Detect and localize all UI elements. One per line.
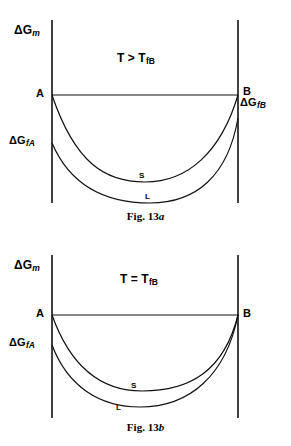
- curve-liquid-b: [52, 315, 238, 407]
- axis-label-y-a: ΔGm: [14, 24, 40, 37]
- caption-a-prefix: Fig. 13: [127, 210, 159, 222]
- curve-label-solid-b: S: [131, 382, 136, 390]
- axis-label-y-symbol-a: ΔG: [14, 23, 32, 37]
- energy-label-fa-symbol-b: ΔG: [9, 336, 26, 348]
- condition-operator-b: =: [128, 272, 141, 286]
- condition-right-subscript-b: fB: [149, 277, 158, 287]
- axis-label-y-symbol-b: ΔG: [14, 258, 32, 272]
- figure-panel-b: ΔGm T=TfB A B ΔGfA S L Fig. 13b: [0, 223, 291, 446]
- energy-label-fb-subscript-a: fB: [257, 100, 266, 110]
- curve-label-solid-a: S: [139, 172, 144, 180]
- caption-b-suffix: b: [159, 421, 165, 433]
- energy-label-fb-a: ΔGfB: [240, 97, 266, 109]
- caption-b: Fig. 13b: [0, 421, 291, 433]
- caption-a-suffix: a: [159, 210, 165, 222]
- axis-label-y-subscript-a: m: [32, 28, 40, 38]
- energy-label-fa-symbol-a: ΔG: [9, 134, 26, 146]
- point-label-b-right: B: [243, 308, 251, 319]
- condition-right-symbol-a: T: [138, 51, 146, 65]
- caption-b-prefix: Fig. 13: [127, 421, 159, 433]
- energy-label-fa-subscript-a: fA: [26, 138, 35, 148]
- condition-right-symbol-b: T: [141, 272, 149, 286]
- condition-label-a: T>TfB: [117, 52, 155, 65]
- condition-left-a: T: [117, 51, 125, 65]
- energy-label-fa-a: ΔGfA: [9, 135, 35, 147]
- curve-liquid-a: [52, 118, 238, 203]
- plot-graphic-b: [0, 223, 291, 428]
- axis-label-y-subscript-b: m: [32, 263, 40, 273]
- condition-label-b: T=TfB: [120, 273, 158, 286]
- caption-a: Fig. 13a: [0, 210, 291, 222]
- curve-solid-a: [52, 95, 238, 182]
- condition-operator-a: >: [125, 51, 138, 65]
- curve-label-liquid-b: L: [116, 404, 121, 412]
- point-label-a-left: A: [36, 88, 44, 99]
- energy-label-fa-subscript-b: fA: [26, 340, 35, 350]
- plot-area-b: ΔGm T=TfB A B ΔGfA S L: [0, 223, 291, 428]
- condition-right-subscript-a: fB: [146, 56, 155, 66]
- curve-solid-b: [52, 315, 238, 391]
- axis-label-y-b: ΔGm: [14, 259, 40, 272]
- curve-label-liquid-a: L: [145, 193, 150, 201]
- plot-area-a: ΔGm T>TfB A B ΔGfB ΔGfA S L: [0, 0, 291, 205]
- point-label-b-left: A: [36, 308, 44, 319]
- figure-page: ΔGm T>TfB A B ΔGfB ΔGfA S L Fig. 13a: [0, 0, 291, 446]
- figure-panel-a: ΔGm T>TfB A B ΔGfB ΔGfA S L Fig. 13a: [0, 0, 291, 230]
- energy-label-fa-b: ΔGfA: [9, 337, 35, 349]
- condition-left-b: T: [120, 272, 128, 286]
- energy-label-fb-symbol-a: ΔG: [240, 96, 257, 108]
